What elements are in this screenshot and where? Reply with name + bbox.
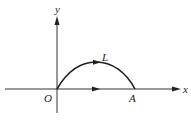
point-a-label: A <box>128 92 136 104</box>
y-axis-arrow-icon <box>55 16 60 25</box>
segment-oa-arrow-icon <box>92 87 100 92</box>
y-axis-label: y <box>54 3 60 15</box>
origin-label: O <box>44 92 52 104</box>
x-axis-arrow-icon <box>172 87 181 92</box>
curve-l-arrow-icon <box>93 60 101 65</box>
diagram-canvas: y x O A L <box>0 0 191 127</box>
curve-l-label: L <box>101 51 108 63</box>
curve-l <box>57 62 135 89</box>
x-axis-label: x <box>182 83 188 95</box>
